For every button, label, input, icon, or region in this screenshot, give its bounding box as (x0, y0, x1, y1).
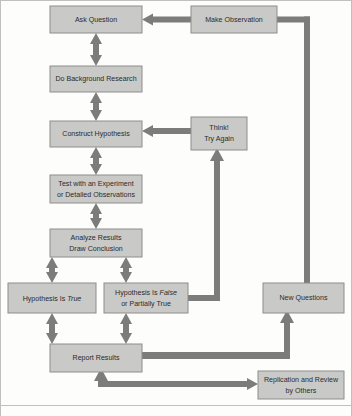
scientific-method-flowchart: Ask Question Make Observation Do Backgro… (0, 0, 352, 416)
node-label-ask-question: Ask Question (75, 16, 117, 24)
connector-analyze-false (120, 257, 132, 283)
connector-new-questions-to-observation (277, 17, 310, 284)
node-hypothesis-false[interactable]: Hypothesis Is False or Partially True (104, 283, 188, 313)
connector-think-to-hypothesis (142, 125, 191, 137)
node-ask-question[interactable]: Ask Question (50, 6, 142, 33)
node-construct-hypothesis[interactable]: Construct Hypothesis (50, 121, 142, 147)
node-label-replication-review-line1: Replication and Review (264, 376, 339, 384)
node-label-test-experiment-line2: or Detailed Observations (57, 191, 136, 199)
connector-background-hypothesis (90, 92, 102, 121)
node-label-hypothesis-false-line2: or Partially True (121, 299, 171, 307)
node-label-analyze-results-line1: Analyze Results (71, 234, 122, 242)
node-label-make-observation: Make Observation (205, 16, 263, 24)
node-label-think-try-again-line2: Try Again (204, 135, 234, 143)
flowchart-canvas: Ask Question Make Observation Do Backgro… (0, 0, 352, 416)
node-label-replication-review-line2: by Others (286, 387, 317, 395)
connector-report-to-new-questions (142, 310, 294, 359)
connector-test-analyze (90, 203, 102, 229)
node-replication-review[interactable]: Replication and Review by Others (258, 371, 344, 399)
node-report-results[interactable]: Report Results (50, 344, 142, 372)
connector-observation-to-question (142, 14, 191, 26)
node-test-experiment[interactable]: Test with an Experiment or Detailed Obse… (50, 175, 142, 203)
node-do-background-research[interactable]: Do Background Research (50, 66, 142, 92)
connector-false-to-think (188, 148, 224, 301)
connector-false-report (120, 313, 132, 344)
node-label-new-questions: New Questions (279, 294, 328, 302)
connector-question-background (90, 33, 102, 66)
connector-hypothesis-test (90, 147, 102, 175)
node-think-try-again[interactable]: Think! Try Again (191, 117, 247, 150)
node-label-do-background-research: Do Background Research (55, 75, 136, 83)
node-analyze-results[interactable]: Analyze Results Draw Conclusion (50, 229, 142, 257)
node-new-questions[interactable]: New Questions (263, 283, 344, 313)
node-label-construct-hypothesis: Construct Hypothesis (62, 130, 130, 138)
connector-analyze-true (46, 257, 58, 283)
connector-report-to-replication (98, 378, 258, 390)
node-label-analyze-results-line2: Draw Conclusion (69, 245, 123, 253)
node-label-hypothesis-true: Hypothesis Is True (23, 294, 82, 302)
node-hypothesis-true[interactable]: Hypothesis Is True (8, 283, 96, 313)
node-label-test-experiment-line1: Test with an Experiment (58, 180, 133, 188)
node-label-report-results: Report Results (73, 354, 120, 362)
connector-true-report (46, 313, 58, 344)
node-make-observation[interactable]: Make Observation (191, 6, 277, 33)
node-label-hypothesis-false-line1: Hypothesis Is False (115, 288, 177, 296)
node-label-think-try-again-line1: Think! (209, 124, 228, 132)
